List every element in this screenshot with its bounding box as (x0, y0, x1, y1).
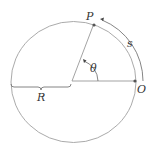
point-p (92, 23, 95, 26)
radius-brace (11, 84, 71, 90)
arc-length-arc (102, 20, 143, 81)
circle (11, 22, 136, 143)
label-theta: θ (90, 62, 97, 75)
label-s: s (127, 37, 133, 50)
label-o: O (137, 83, 146, 96)
circle-diagram: P O s θ R (0, 0, 163, 149)
angle-arrow-icon (83, 59, 87, 63)
label-r: R (36, 91, 45, 104)
label-p: P (85, 10, 94, 23)
